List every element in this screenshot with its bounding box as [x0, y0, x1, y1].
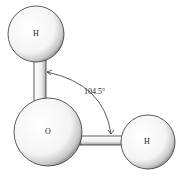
atom-label-o: O — [45, 128, 51, 136]
bond-o-h-top — [34, 58, 46, 104]
atom-label-h-right: H — [144, 138, 150, 146]
bond-o-h-right — [80, 136, 124, 145]
bond-angle-label: 104.5° — [84, 88, 105, 96]
atom-label-h-top: H — [33, 30, 39, 38]
